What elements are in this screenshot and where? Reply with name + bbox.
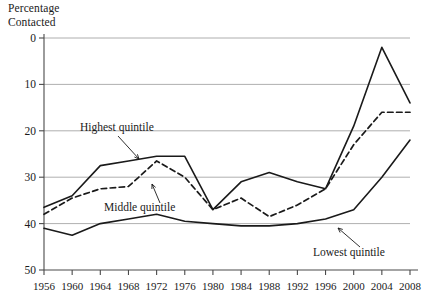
x-tick-label: 2000 [343, 280, 366, 292]
x-tick-label: 2004 [371, 280, 394, 292]
x-tick-marks [44, 270, 410, 275]
x-tick-label: 1976 [174, 280, 197, 292]
x-tick-label: 1988 [258, 280, 281, 292]
line-chart: PercentageContacted 50403020100 19561960… [0, 0, 422, 307]
x-tick-label: 1972 [146, 280, 168, 292]
x-tick-label: 1960 [61, 280, 84, 292]
y-tick-label: 40 [25, 218, 37, 230]
y-tick-label: 30 [25, 171, 37, 183]
y-tick-label: 0 [30, 32, 36, 44]
x-tick-labels: 1956196019641968197219761980198419881992… [33, 280, 422, 292]
y-tick-marks [39, 38, 44, 270]
y-tick-label: 10 [25, 78, 37, 90]
x-tick-label: 1992 [286, 280, 308, 292]
annotation-label-highest: Highest quintile [80, 121, 154, 134]
chart-canvas: 50403020100 1956196019641968197219761980… [0, 0, 422, 307]
y-tick-labels: 50403020100 [25, 32, 37, 276]
series-line-lowest-quintile [44, 140, 410, 235]
x-tick-label: 1980 [202, 280, 225, 292]
annotation-leader-lowest [338, 228, 360, 247]
annotation-leader-highest [118, 136, 139, 159]
annotation-label-middle: Middle quintile [104, 201, 175, 214]
y-tick-label: 50 [25, 264, 37, 276]
x-tick-label: 1984 [230, 280, 253, 292]
x-tick-label: 1956 [33, 280, 56, 292]
data-series [44, 47, 410, 235]
annotation-label-lowest: Lowest quintile [313, 246, 385, 259]
x-tick-label: 2008 [399, 280, 422, 292]
x-tick-label: 1996 [315, 280, 338, 292]
x-tick-label: 1968 [117, 280, 140, 292]
x-tick-label: 1964 [89, 280, 112, 292]
y-tick-label: 20 [25, 125, 37, 137]
